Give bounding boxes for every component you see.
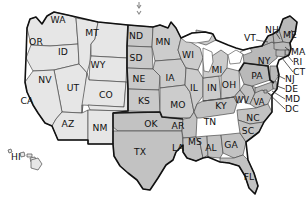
state-label-ME: ME xyxy=(283,30,297,39)
state-label-OK: OK xyxy=(144,119,157,128)
state-label-NE: NE xyxy=(133,74,146,83)
state-label-WV: WV xyxy=(235,96,249,104)
state-label-KY: KY xyxy=(215,101,227,110)
state-label-OH: OH xyxy=(222,80,236,89)
state-label-NM: NM xyxy=(93,123,108,132)
state-label-PA: PA xyxy=(251,71,262,80)
state-label-NJ: NJ xyxy=(285,74,295,83)
state-label-ND: ND xyxy=(129,31,143,40)
state-label-MT: MT xyxy=(85,28,99,37)
state-label-IA: IA xyxy=(165,73,174,82)
state-label-GA: GA xyxy=(224,140,238,149)
state-label-WI: WI xyxy=(182,50,194,59)
state-label-SC: SC xyxy=(242,126,254,135)
state-label-NH: NH xyxy=(265,25,279,34)
state-label-HI: HI xyxy=(11,152,21,161)
state-label-AR: AR xyxy=(172,121,185,130)
lake-superior xyxy=(181,32,213,43)
state-label-VA: VA xyxy=(253,98,264,106)
state-label-IL: IL xyxy=(190,83,198,92)
state-label-CO: CO xyxy=(99,90,113,99)
state-label-MD: MD xyxy=(285,94,300,103)
state-label-NY: NY xyxy=(258,56,271,65)
state-label-OR: OR xyxy=(29,37,43,46)
state-shape-DC[interactable] xyxy=(264,90,267,93)
state-label-WA: WA xyxy=(50,15,65,24)
state-label-RI: RI xyxy=(293,57,302,66)
state-label-MI: MI xyxy=(212,65,223,74)
state-label-LA: LA xyxy=(172,143,184,152)
state-label-NC: NC xyxy=(246,113,260,122)
state-label-FL: FL xyxy=(244,172,255,181)
state-label-KS: KS xyxy=(138,96,150,105)
leader-MD xyxy=(272,91,285,99)
state-label-IN: IN xyxy=(207,83,217,92)
state-shape-CT[interactable] xyxy=(276,50,285,57)
pin-marker-icon xyxy=(137,2,141,14)
state-label-MN: MN xyxy=(156,37,171,46)
us-map: WA OR ID MT WY NV UT CO CA AZ NM ND SD N… xyxy=(0,0,308,203)
state-label-MO: MO xyxy=(170,100,185,109)
state-label-AZ: AZ xyxy=(62,119,75,128)
state-label-SD: SD xyxy=(129,53,142,62)
state-label-CT: CT xyxy=(293,67,305,76)
state-label-MA: MA xyxy=(291,47,305,56)
state-label-UT: UT xyxy=(67,83,80,92)
leader-DE xyxy=(277,86,285,89)
state-label-MS: MS xyxy=(188,137,202,146)
state-label-TN: TN xyxy=(204,117,217,126)
state-label-ID: ID xyxy=(58,47,68,56)
leader-DC xyxy=(268,93,285,109)
state-label-TX: TX xyxy=(134,147,146,156)
state-label-AL: AL xyxy=(205,143,217,152)
state-label-DE: DE xyxy=(285,84,298,93)
state-label-NV: NV xyxy=(38,75,51,84)
hawaii-island-molokai xyxy=(27,154,32,157)
state-shape-RI[interactable] xyxy=(285,50,289,55)
hawaii-island-hawaii xyxy=(31,158,42,170)
state-label-DC: DC xyxy=(285,104,299,113)
state-label-CA: CA xyxy=(21,96,34,105)
state-label-WY: WY xyxy=(91,60,106,69)
state-label-VT: VT xyxy=(244,33,256,42)
